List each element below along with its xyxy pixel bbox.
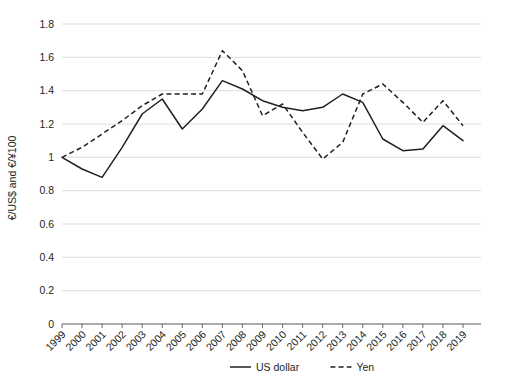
x-axis-tick-label: 2012 bbox=[304, 328, 329, 353]
x-axis-tick-label: 2000 bbox=[63, 328, 88, 353]
x-axis-tick-label: 2009 bbox=[243, 328, 268, 353]
y-axis-tick-label: 1.8 bbox=[39, 18, 54, 30]
x-axis-tick-marks bbox=[62, 324, 463, 328]
x-axis-tick-label: 2017 bbox=[404, 328, 429, 353]
legend-label-yen: Yen bbox=[356, 361, 374, 373]
y-axis-title: €/US$ and €/¥100 bbox=[6, 136, 18, 221]
y-axis-tick-label: 1.4 bbox=[39, 84, 54, 96]
series-line-us-dollar bbox=[62, 81, 463, 178]
x-axis-tick-label: 2004 bbox=[143, 328, 168, 353]
x-axis-tick-label: 2003 bbox=[123, 328, 148, 353]
x-axis-tick-label: 2002 bbox=[103, 328, 128, 353]
y-axis-tick-label: 1 bbox=[48, 151, 54, 163]
x-axis-tick-label: 2006 bbox=[183, 328, 208, 353]
data-series bbox=[62, 51, 463, 178]
y-axis-tick-label: 0.6 bbox=[39, 218, 54, 230]
x-axis-tick-label: 2005 bbox=[163, 328, 188, 353]
y-axis-tick-label: 0.8 bbox=[39, 184, 54, 196]
x-axis-tick-label: 2013 bbox=[324, 328, 349, 353]
x-axis-tick-label: 2015 bbox=[364, 328, 389, 353]
x-axis-tick-label: 2016 bbox=[384, 328, 409, 353]
chart-legend: US dollarYen bbox=[230, 361, 374, 373]
y-axis-tick-label: 1.2 bbox=[39, 118, 54, 130]
gridlines bbox=[62, 24, 481, 291]
line-chart-figure: 00.20.40.60.811.21.41.61.8 1999200020012… bbox=[0, 0, 506, 386]
legend-label-us-dollar: US dollar bbox=[256, 361, 300, 373]
x-axis-tick-label: 2001 bbox=[83, 328, 108, 353]
x-axis-tick-label: 2010 bbox=[263, 328, 288, 353]
x-axis-tick-label: 2018 bbox=[424, 328, 449, 353]
series-line-yen bbox=[62, 51, 463, 159]
y-axis-tick-label: 0.2 bbox=[39, 284, 54, 296]
x-axis-tick-label: 2014 bbox=[344, 328, 369, 353]
y-axis-tick-label: 0 bbox=[48, 318, 54, 330]
y-axis-tick-labels: 00.20.40.60.811.21.41.61.8 bbox=[39, 18, 54, 330]
x-axis-tick-label: 2011 bbox=[284, 328, 309, 353]
chart-canvas: 00.20.40.60.811.21.41.61.8 1999200020012… bbox=[0, 0, 506, 386]
x-axis-tick-label: 1999 bbox=[43, 328, 68, 353]
y-axis-tick-label: 0.4 bbox=[39, 251, 54, 263]
y-axis-tick-label: 1.6 bbox=[39, 51, 54, 63]
x-axis-tick-label: 2007 bbox=[203, 328, 228, 353]
x-axis-tick-label: 2019 bbox=[444, 328, 469, 353]
x-axis-tick-labels: 1999200020012002200320042005200620072008… bbox=[43, 328, 469, 353]
x-axis-tick-label: 2008 bbox=[223, 328, 248, 353]
